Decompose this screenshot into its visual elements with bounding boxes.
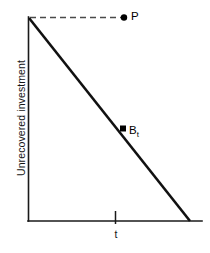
point-bt-label: Bt xyxy=(129,124,139,139)
point-p-marker xyxy=(121,14,127,20)
point-bt-label-subscript: t xyxy=(137,130,139,139)
figure-canvas xyxy=(0,0,210,253)
point-bt-label-base: B xyxy=(129,124,137,136)
x-tick-label-t: t xyxy=(108,228,124,240)
point-bt-marker xyxy=(120,126,126,132)
declining-investment-line xyxy=(29,18,190,221)
point-p-label: P xyxy=(131,10,139,22)
y-axis-label: Unrecovered investment xyxy=(15,33,27,203)
unrecovered-investment-figure: Unrecovered investment P Bt t xyxy=(0,0,210,253)
